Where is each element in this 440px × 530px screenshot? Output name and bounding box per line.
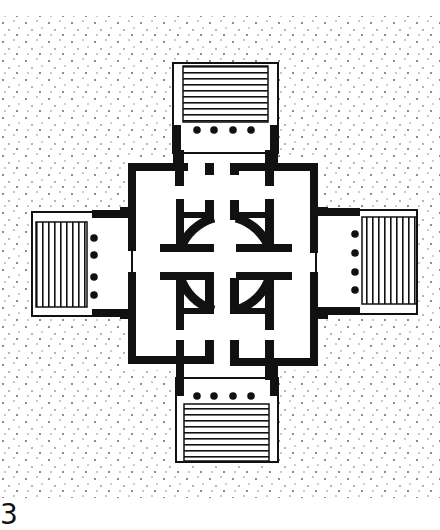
floor-plan-drawing — [0, 0, 440, 530]
figure-number: 3 — [0, 500, 18, 530]
